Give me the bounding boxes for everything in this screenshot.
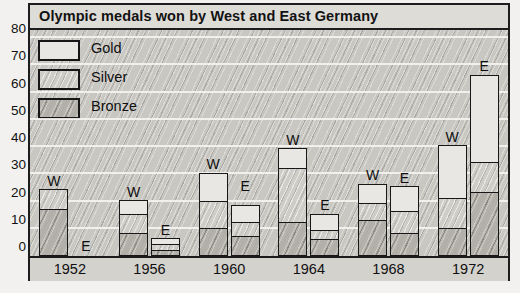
bar-1968-W: [358, 185, 387, 256]
chart-title-bar: Olympic medals won by West and East Germ…: [30, 5, 508, 30]
x-axis-band: [30, 258, 508, 281]
segment-silver: [39, 189, 68, 210]
bar-1964-E: [310, 215, 339, 256]
bronze-swatch: [38, 98, 80, 119]
segment-gold: [470, 75, 499, 164]
bar-group-label: E: [232, 178, 258, 194]
bar-1972-W: [438, 147, 467, 256]
segment-silver: [438, 197, 467, 229]
silver-swatch: [38, 69, 80, 90]
gridline: [30, 172, 508, 174]
segment-bronze: [39, 208, 68, 256]
y-tick-label: 0: [18, 239, 26, 254]
x-tick-label: 1964: [279, 261, 339, 277]
bar-group-label: W: [439, 129, 465, 145]
x-tick-label: 1960: [199, 261, 259, 277]
gridline: [30, 200, 508, 202]
bar-group-label: W: [280, 132, 306, 148]
bar-1956-W: [119, 202, 148, 257]
segment-bronze: [231, 235, 260, 256]
y-axis: 01020304050607080: [0, 0, 28, 293]
segment-gold: [390, 186, 419, 212]
chart-frame: Olympic medals won by West and East Germ…: [28, 3, 510, 281]
segment-gold: [231, 205, 260, 223]
bar-group-label: W: [41, 173, 67, 189]
segment-silver: [358, 203, 387, 221]
bar-1956-E: [151, 240, 180, 256]
segment-bronze: [278, 222, 307, 256]
bar-group-label: E: [312, 197, 338, 213]
y-tick-label: 60: [11, 75, 26, 90]
y-tick-label: 20: [11, 184, 26, 199]
gridline: [30, 91, 508, 93]
bar-group-label: E: [73, 238, 99, 254]
segment-bronze: [310, 238, 339, 256]
bar-1968-E: [390, 188, 419, 256]
bar-1952-W: [39, 191, 68, 256]
x-tick-label: 1968: [359, 261, 419, 277]
bar-group-label: W: [121, 184, 147, 200]
gridline: [30, 63, 508, 65]
segment-silver: [470, 162, 499, 194]
chart-title: Olympic medals won by West and East Germ…: [39, 8, 378, 24]
gridline: [30, 118, 508, 120]
segment-bronze: [199, 227, 228, 256]
bar-1960-E: [231, 196, 260, 256]
segment-gold: [438, 145, 467, 198]
segment-silver: [390, 211, 419, 234]
segment-gold: [310, 214, 339, 232]
legend-label: Silver: [91, 69, 127, 85]
y-tick-label: 10: [11, 211, 26, 226]
y-tick-label: 40: [11, 130, 26, 145]
y-tick-label: 80: [11, 21, 26, 36]
y-tick-label: 30: [11, 157, 26, 172]
segment-gold: [151, 238, 180, 245]
gridline: [30, 227, 508, 229]
segment-silver: [199, 200, 228, 229]
x-tick-label: 1956: [120, 261, 180, 277]
bar-1964-W: [278, 150, 307, 256]
segment-bronze: [358, 219, 387, 256]
plot-area: GoldSilverBronze WEWEWEWEWEWE: [30, 30, 508, 256]
segment-bronze: [119, 233, 148, 256]
gold-swatch: [38, 40, 80, 61]
bar-1972-E: [470, 76, 499, 256]
bar-group-label: E: [392, 170, 418, 186]
legend-label: Bronze: [91, 98, 137, 114]
segment-bronze: [470, 192, 499, 256]
segment-bronze: [438, 227, 467, 256]
gridline: [30, 36, 508, 38]
bar-group-label: W: [360, 167, 386, 183]
segment-silver: [231, 222, 260, 237]
x-tick-label: 1972: [438, 261, 498, 277]
segment-bronze: [390, 233, 419, 256]
segment-silver: [278, 167, 307, 223]
y-tick-label: 70: [11, 48, 26, 63]
segment-gold: [199, 173, 228, 202]
segment-gold: [278, 148, 307, 169]
bar-group-label: E: [153, 222, 179, 238]
legend-label: Gold: [91, 40, 122, 56]
segment-gold: [358, 184, 387, 205]
x-tick-label: 1952: [40, 261, 100, 277]
bar-group-label: W: [200, 156, 226, 172]
y-tick-label: 50: [11, 102, 26, 117]
segment-silver: [119, 214, 148, 235]
bar-1960-W: [199, 174, 228, 256]
chart-screenshot: 01020304050607080 Olympic medals won by …: [0, 0, 520, 293]
gridline: [30, 145, 508, 147]
segment-gold: [119, 200, 148, 215]
bar-group-label: E: [471, 58, 497, 74]
